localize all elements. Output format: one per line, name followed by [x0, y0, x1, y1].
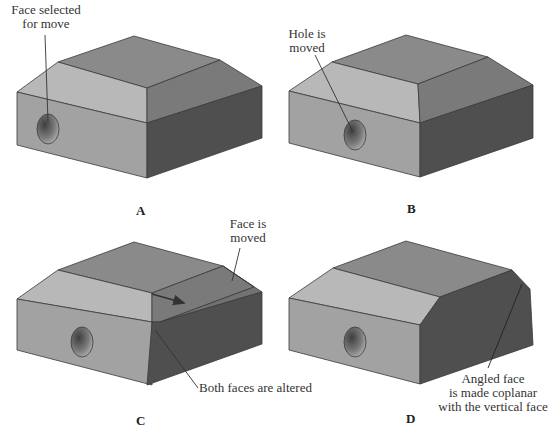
figure-d	[289, 241, 533, 384]
callout-b: Hole is moved	[287, 27, 327, 55]
panel-letter-a: A	[136, 203, 145, 219]
figure-c	[17, 242, 262, 388]
callout-c-line1: Face is	[226, 217, 270, 231]
callout-c-both-faces: Both faces are altered	[199, 381, 312, 395]
panel-letter-d: D	[406, 411, 415, 427]
hole	[344, 120, 366, 150]
callout-b-line1: Hole is	[287, 27, 327, 41]
callout-a-line2: for move	[6, 17, 86, 31]
callout-d: Angled face is made coplanar with the ve…	[434, 372, 552, 414]
hole	[344, 327, 366, 357]
callout-a: Face selected for move	[6, 3, 86, 31]
callout-a-line1: Face selected	[6, 3, 86, 17]
hole	[71, 327, 93, 357]
figure-a	[17, 35, 262, 178]
callout-c-line2: moved	[226, 231, 270, 245]
callout-b-line2: moved	[287, 41, 327, 55]
callout-c-both-faces-text: Both faces are altered	[199, 380, 312, 395]
panel-letter-c: C	[136, 413, 145, 429]
panel-letter-b: B	[407, 201, 416, 217]
figure-b	[289, 35, 533, 177]
callout-d-line2: is made coplanar	[434, 386, 552, 400]
callout-c-face-moved: Face is moved	[226, 217, 270, 245]
callout-d-line3: with the vertical face	[434, 400, 552, 414]
callout-d-line1: Angled face	[434, 372, 552, 386]
